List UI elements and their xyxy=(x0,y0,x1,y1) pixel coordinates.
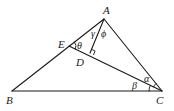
right-angle-mark xyxy=(92,49,96,54)
angle-arc-beta xyxy=(149,85,150,91)
angle-phi-label: ϕ xyxy=(101,28,106,39)
segment-EC xyxy=(69,46,162,91)
triangle-diagram: A B C D E γ ϕ θ β α xyxy=(0,0,174,111)
label-A: A xyxy=(102,4,110,16)
label-E: E xyxy=(57,38,65,50)
label-D: D xyxy=(75,56,84,68)
angle-arc-theta xyxy=(75,42,77,49)
label-C: C xyxy=(156,94,164,106)
label-B: B xyxy=(6,94,13,106)
angle-theta-label: θ xyxy=(77,40,82,51)
angle-gamma-label: γ xyxy=(91,28,96,39)
angle-alpha-label: α xyxy=(144,73,150,84)
angle-beta-label: β xyxy=(131,80,137,91)
angle-arc-alpha xyxy=(154,84,157,87)
